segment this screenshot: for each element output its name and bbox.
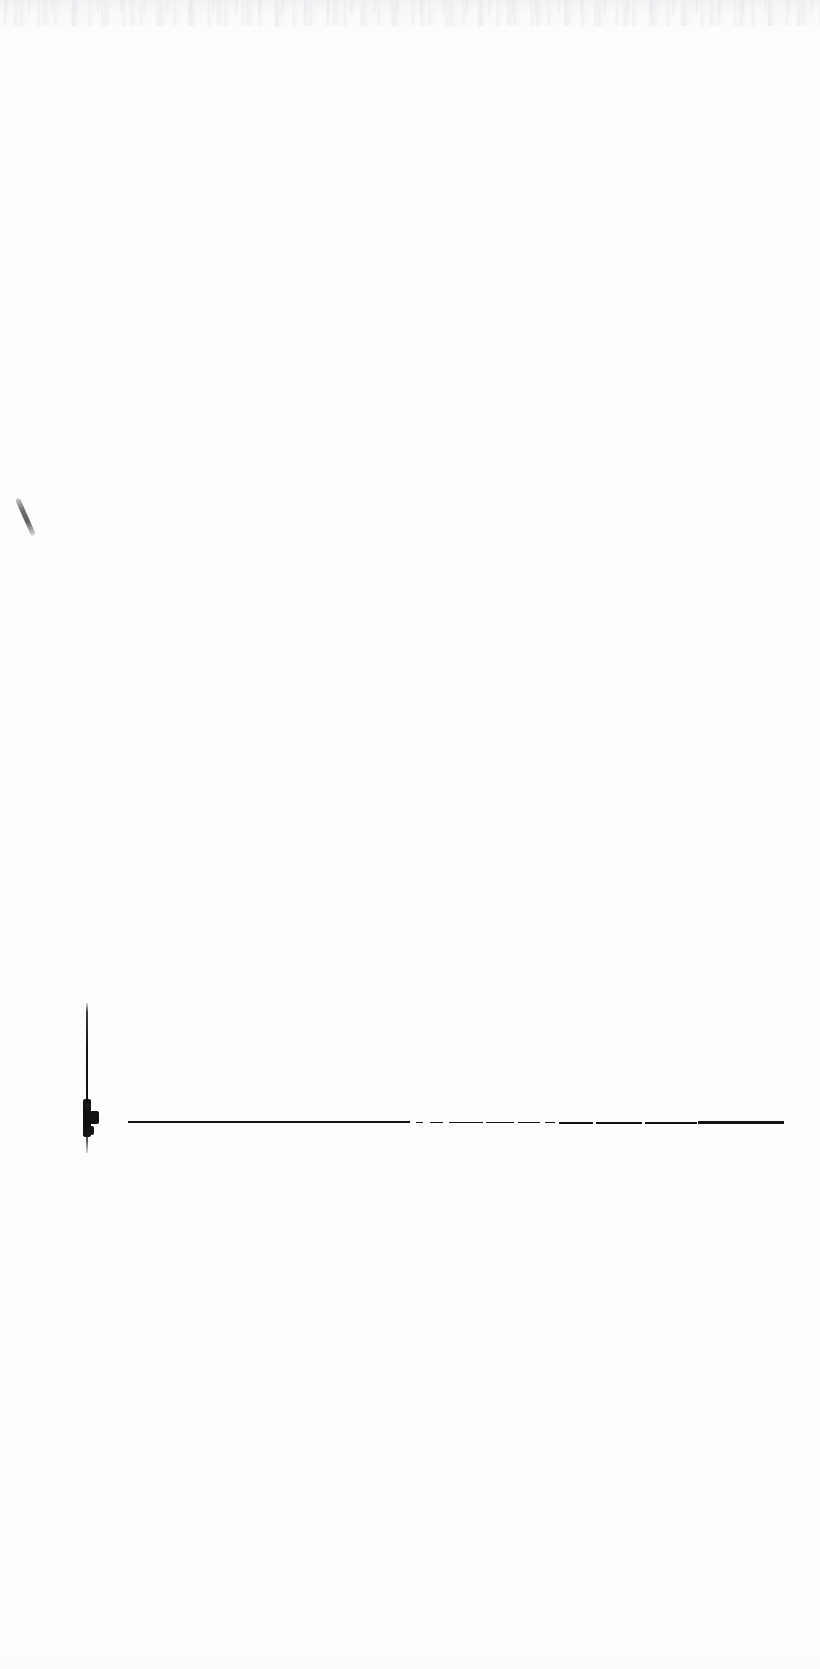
baseline-segment bbox=[740, 1121, 784, 1124]
baseline-segment bbox=[545, 1122, 555, 1123]
baseline-segment bbox=[518, 1122, 540, 1124]
baseline-segment bbox=[698, 1121, 742, 1124]
page-edge-vignette bbox=[0, 0, 820, 1669]
baseline-segment bbox=[596, 1122, 642, 1124]
baseline-segment bbox=[559, 1122, 593, 1124]
scanned-page bbox=[0, 0, 820, 1669]
baseline-segment bbox=[416, 1122, 423, 1123]
baseline-segment bbox=[449, 1122, 483, 1124]
baseline-segment bbox=[128, 1121, 214, 1123]
baseline-segment bbox=[486, 1122, 514, 1124]
baseline-segment bbox=[342, 1121, 392, 1123]
scan-noise-band bbox=[0, 0, 820, 26]
baseline-segment bbox=[282, 1121, 346, 1123]
baseline-segment bbox=[430, 1122, 443, 1124]
baseline-segment bbox=[645, 1122, 697, 1125]
baseline-segment bbox=[388, 1121, 410, 1123]
diagonal-pen-tick-mark bbox=[15, 498, 36, 537]
origin-ink-blob-core bbox=[86, 1111, 99, 1124]
baseline-segment bbox=[210, 1121, 288, 1123]
origin-ink-blob-upper bbox=[85, 1103, 91, 1110]
scan-noise-band-secondary bbox=[0, 0, 820, 14]
origin-ink-blob-lower bbox=[84, 1126, 94, 1135]
